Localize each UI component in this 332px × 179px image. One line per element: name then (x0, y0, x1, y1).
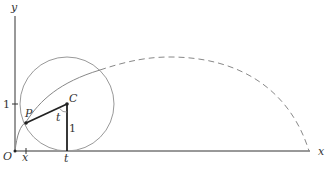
x-axis-label: x (318, 145, 325, 158)
cycloid-dashed (100, 57, 309, 151)
cycloid-diagram: y x O x t 1 P C t 1 (0, 0, 332, 179)
angle-label: t (56, 111, 61, 124)
y-tick-one-label: 1 (3, 98, 10, 111)
point-p (24, 121, 28, 125)
point-o (14, 150, 17, 153)
x-tick-label: x (22, 151, 29, 164)
y-axis-label: y (10, 1, 18, 14)
radius-label: 1 (69, 122, 76, 135)
point-p-label: P (24, 107, 33, 120)
t-tick-label: t (64, 152, 69, 165)
point-c-label: C (69, 92, 78, 105)
origin-label: O (3, 150, 12, 163)
